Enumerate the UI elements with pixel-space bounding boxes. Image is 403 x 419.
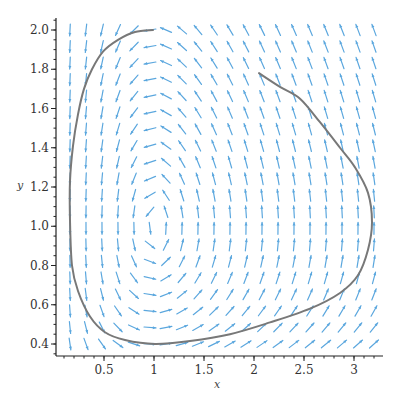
field-arrow (277, 222, 280, 234)
field-arrow (293, 255, 296, 267)
field-arrow (132, 173, 137, 184)
field-arrow (305, 340, 314, 347)
field-arrow (84, 338, 88, 349)
field-arrow (308, 206, 311, 218)
field-arrow (370, 323, 377, 332)
field-arrow (356, 41, 360, 52)
field-arrow (309, 239, 312, 251)
field-arrow (177, 291, 186, 299)
field-arrow (196, 157, 201, 168)
field-arrow (293, 239, 296, 251)
field-arrow (100, 140, 103, 152)
field-arrow (243, 41, 248, 52)
field-arrow (195, 124, 201, 135)
y-tick-label: 0.6 (30, 298, 49, 312)
field-arrow (178, 43, 187, 51)
field-arrow (165, 222, 168, 234)
field-arrow (146, 207, 154, 216)
field-arrow (116, 41, 121, 52)
field-arrow (85, 239, 88, 251)
y-tick-label: 0.4 (30, 337, 49, 351)
field-arrow (84, 156, 87, 168)
field-arrow (260, 91, 265, 102)
field-arrow (244, 173, 247, 185)
field-arrow (100, 173, 103, 185)
x-axis-label: x (214, 378, 221, 391)
field-arrow (308, 74, 312, 85)
field-arrow (192, 342, 203, 347)
direction-field (68, 24, 378, 350)
field-arrow (68, 140, 71, 152)
field-arrow (277, 255, 280, 267)
field-arrow (276, 123, 280, 134)
field-arrow (84, 206, 87, 218)
field-arrow (257, 341, 267, 348)
field-arrow (228, 124, 233, 135)
field-arrow (290, 323, 298, 332)
x-axis-ticks: 0.511.522.53 (64, 356, 374, 377)
field-arrow (100, 305, 104, 316)
field-arrow (193, 325, 203, 331)
field-arrow (356, 289, 361, 300)
field-arrow (210, 290, 217, 300)
field-arrow (357, 222, 360, 234)
field-arrow (85, 288, 88, 300)
field-arrow (275, 289, 280, 300)
field-arrow (161, 61, 172, 66)
field-arrow (308, 123, 312, 135)
field-arrow (196, 189, 199, 201)
field-arrow (69, 288, 72, 300)
field-arrow (340, 41, 344, 52)
field-arrow (276, 140, 280, 152)
field-arrow (144, 128, 156, 132)
field-arrow (211, 25, 218, 35)
field-arrow (242, 306, 250, 315)
y-tick-label: 1.0 (30, 219, 49, 233)
field-arrow (163, 190, 170, 200)
field-arrow (276, 156, 279, 168)
field-arrow (372, 74, 376, 85)
field-arrow (258, 306, 265, 316)
field-arrow (161, 93, 172, 99)
field-arrow (129, 308, 139, 315)
field-arrow (130, 290, 139, 298)
field-arrow (176, 325, 187, 330)
x-tick-label: 2.5 (294, 363, 313, 377)
field-arrow (101, 272, 104, 284)
field-arrow (357, 255, 360, 267)
field-arrow (308, 156, 311, 168)
field-arrow (261, 222, 264, 234)
field-arrow (195, 75, 202, 85)
field-arrow (144, 78, 156, 81)
field-arrow (144, 95, 156, 98)
field-arrow (275, 41, 280, 52)
field-arrow (321, 340, 330, 348)
field-arrow (160, 309, 172, 313)
field-arrow (115, 25, 120, 36)
field-arrow (211, 124, 216, 135)
field-arrow (130, 108, 137, 118)
field-arrow (68, 24, 71, 36)
field-arrow (372, 173, 375, 185)
field-arrow (116, 74, 121, 85)
field-arrow (261, 239, 264, 251)
field-arrow (133, 222, 136, 234)
field-arrow (178, 59, 187, 67)
field-arrow (130, 42, 138, 51)
field-arrow (194, 58, 201, 68)
field-arrow (117, 222, 120, 234)
field-arrow (116, 140, 120, 152)
field-arrow (197, 222, 200, 234)
field-arrow (324, 272, 328, 284)
field-arrow (116, 90, 120, 101)
field-arrow (323, 306, 329, 316)
x-tick-label: 3 (350, 363, 358, 377)
field-arrow (292, 173, 295, 185)
field-arrow (324, 156, 327, 168)
field-arrow (275, 306, 282, 316)
field-arrow (116, 173, 119, 185)
field-arrow (84, 123, 87, 135)
field-arrow (130, 273, 137, 283)
field-arrow (69, 338, 72, 350)
field-arrow (101, 289, 105, 301)
